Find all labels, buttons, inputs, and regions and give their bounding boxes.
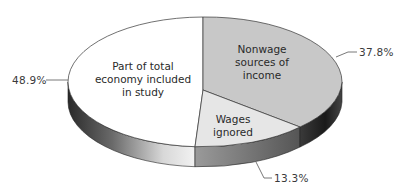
label-wages-line1: Wages: [205, 113, 261, 126]
pct-nonwage: 37.8%: [359, 46, 394, 58]
label-included-line2: economy included: [88, 73, 198, 86]
label-wages: Wages ignored: [205, 113, 261, 139]
label-included-line3: in study: [88, 86, 198, 99]
label-nonwage-line2: sources of: [222, 56, 302, 69]
pct-wages: 13.3%: [274, 172, 309, 184]
label-included-line1: Part of total: [88, 60, 198, 73]
pct-included: 48.9%: [12, 74, 47, 86]
label-nonwage-line3: income: [222, 69, 302, 82]
label-included: Part of total economy included in study: [88, 60, 198, 99]
label-wages-line2: ignored: [205, 126, 261, 139]
label-nonwage: Nonwage sources of income: [222, 43, 302, 82]
leader-wages: [256, 162, 272, 178]
label-nonwage-line1: Nonwage: [222, 43, 302, 56]
pie-chart: [0, 0, 405, 193]
leader-nonwage: [336, 52, 357, 57]
